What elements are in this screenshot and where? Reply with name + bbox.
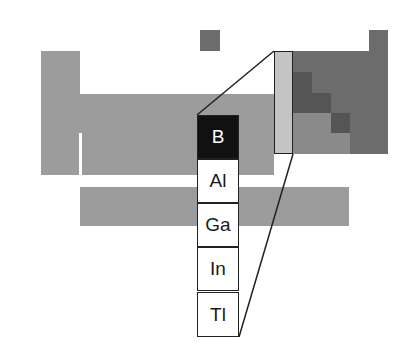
element-cell-thallium: Tl	[197, 292, 239, 337]
element-cell-boron: B	[197, 115, 239, 159]
element-cell-aluminum: Al	[197, 159, 239, 203]
element-cell-indium: In	[197, 247, 239, 291]
element-cell-gallium: Ga	[197, 203, 239, 247]
